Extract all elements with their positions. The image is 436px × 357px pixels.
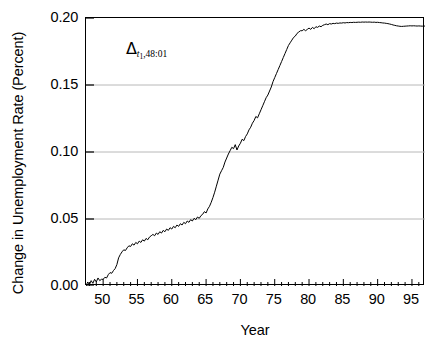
- x-tick-label: 90: [360, 292, 394, 307]
- y-tick-label: 0.00: [32, 278, 78, 292]
- y-tick-label: 0.05: [32, 211, 78, 225]
- delta-symbol: Δ: [126, 39, 137, 58]
- x-tick-label: 55: [119, 292, 153, 307]
- x-tick-label: 60: [154, 292, 188, 307]
- y-axis-title: Change in Unemployment Rate (Percent): [7, 13, 29, 313]
- x-axis-title: Year: [85, 322, 425, 338]
- x-tick-label: 50: [85, 292, 119, 307]
- y-tick-label: 0.20: [32, 10, 78, 24]
- y-tick-label: 0.15: [32, 77, 78, 91]
- series-annotation: Δt1,48:01: [126, 40, 167, 65]
- x-tick-label: 65: [188, 292, 222, 307]
- x-tick-label: 95: [394, 292, 428, 307]
- x-tick-label: 70: [222, 292, 256, 307]
- x-tick-label: 85: [325, 292, 359, 307]
- annotation-subscript: t1,48:01: [137, 49, 167, 59]
- x-tick-label: 75: [257, 292, 291, 307]
- y-tick-label: 0.10: [32, 144, 78, 158]
- chart-figure: Change in Unemployment Rate (Percent) 0.…: [0, 0, 436, 357]
- x-tick-label: 80: [291, 292, 325, 307]
